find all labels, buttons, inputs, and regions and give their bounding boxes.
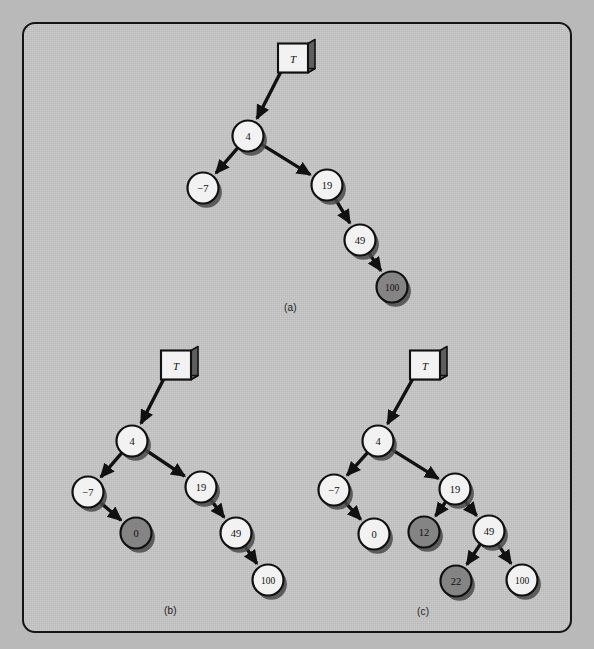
tree-node: 19 xyxy=(186,472,220,507)
tree-node-label: 100 xyxy=(261,576,276,586)
tree-edge xyxy=(388,379,413,424)
tree-node-label: 49 xyxy=(231,528,242,539)
tree-edge xyxy=(216,147,239,174)
tree-node-label: −7 xyxy=(82,487,93,498)
tree-node: −7 xyxy=(319,475,353,510)
root-pointer-label: T xyxy=(290,53,297,65)
tree-edge xyxy=(390,448,438,478)
tree-node-label: 19 xyxy=(450,484,461,495)
root-pointer-box: T xyxy=(278,40,315,73)
tree-diagrams-canvas: T4−71949100T4−701949100T4−7019124922100 xyxy=(0,0,594,649)
panel-caption-c: (c) xyxy=(417,606,429,617)
tree-node: 0 xyxy=(359,519,393,554)
tree-node-label: 4 xyxy=(129,436,135,447)
tree-node-label: 100 xyxy=(385,283,400,293)
tree-node: 49 xyxy=(345,225,379,260)
tree-node: 4 xyxy=(363,426,397,461)
tree-node: 12 xyxy=(409,517,443,552)
root-pointer-box: T xyxy=(410,347,447,380)
tree-node: 22 xyxy=(441,566,475,601)
tree-node-label: 22 xyxy=(451,576,462,587)
tree-node-label: 4 xyxy=(245,131,251,142)
tree-node: 100 xyxy=(377,272,411,307)
tree-node-label: 19 xyxy=(196,482,207,493)
tree-node: 49 xyxy=(221,518,255,553)
tree-edge xyxy=(141,379,164,424)
tree-node-label: 100 xyxy=(515,576,530,586)
tree-node: 100 xyxy=(507,565,541,600)
tree-node-label: 0 xyxy=(371,529,376,540)
tree-node: 19 xyxy=(312,170,346,205)
tree-edge xyxy=(257,72,281,119)
tree-node-label: 49 xyxy=(484,526,495,537)
tree-node-label: 0 xyxy=(133,528,138,539)
tree-edge xyxy=(347,451,368,475)
tree-node-label: 19 xyxy=(322,180,333,191)
tree-edge xyxy=(144,449,185,476)
root-pointer-box: T xyxy=(161,347,198,380)
tree-node: 0 xyxy=(121,518,155,553)
tree-node: −7 xyxy=(73,477,107,512)
tree-edge xyxy=(260,143,310,174)
root-pointer-label: T xyxy=(173,360,180,372)
tree-edge xyxy=(101,452,123,477)
root-pointer-label: T xyxy=(422,360,429,372)
tree-node: 100 xyxy=(253,565,287,600)
nodes-layer: T4−71949100T4−701949100T4−7019124922100 xyxy=(73,40,541,601)
panel-caption-a: (a) xyxy=(284,302,297,313)
tree-node-label: 49 xyxy=(355,235,366,246)
tree-edge xyxy=(436,500,447,516)
panel-caption-b: (b) xyxy=(164,605,177,616)
tree-node-label: −7 xyxy=(197,183,208,194)
tree-node: −7 xyxy=(188,173,222,208)
figure-root: T4−71949100T4−701949100T4−7019124922100 … xyxy=(0,0,594,649)
tree-edge xyxy=(467,543,481,565)
tree-node-label: −7 xyxy=(328,485,339,496)
tree-node-label: 4 xyxy=(375,436,381,447)
tree-node-label: 12 xyxy=(419,527,430,538)
